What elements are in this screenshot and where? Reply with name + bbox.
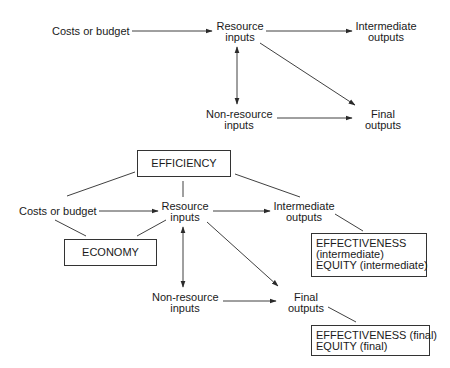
arrow-resource-to-final [260, 43, 355, 105]
link-efficiency-to-intermediate [235, 174, 300, 197]
bottom-final-line2: outputs [285, 303, 327, 314]
bottom-resource-inputs-label: Resource inputs [156, 201, 214, 223]
equity-intermediate-line: EQUITY (intermediate) [316, 260, 426, 271]
top-final-outputs-label: Final outputs [360, 109, 406, 131]
bottom-costs-label: Costs or budget [19, 206, 97, 217]
economy-box: ECONOMY [64, 239, 157, 266]
equity-final-line: EQUITY (final) [316, 341, 429, 352]
top-resource-line2: inputs [212, 32, 268, 43]
bottom-non-resource-inputs-label: Non-resource inputs [152, 292, 218, 314]
bottom-nonresource-line2: inputs [152, 303, 218, 314]
link-final-to-effectiveness-box [328, 307, 356, 322]
top-intermediate-outputs-label: Intermediate outputs [353, 21, 419, 43]
efficiency-box: EFFICIENCY [137, 150, 231, 177]
top-nonresource-line2: inputs [206, 120, 272, 131]
economy-label: ECONOMY [82, 247, 139, 258]
efficiency-label: EFFICIENCY [151, 158, 216, 169]
link-intermediate-to-effectiveness-box [335, 214, 363, 231]
bottom-intermediate-outputs-label: Intermediate outputs [271, 201, 337, 223]
arrow-resource-to-final-bottom [207, 222, 278, 286]
link-costs-to-economy [55, 220, 86, 236]
effectiveness-intermediate-box: EFFECTIVENESS (intermediate) EQUITY (int… [311, 233, 427, 277]
bottom-final-outputs-label: Final outputs [285, 292, 327, 314]
top-resource-inputs-label: Resource inputs [212, 21, 268, 43]
bottom-resource-line2: inputs [156, 212, 214, 223]
effectiveness-final-box: EFFECTIVENESS (final) EQUITY (final) [311, 325, 430, 356]
diagram-connectors [0, 0, 450, 368]
top-costs-label: Costs or budget [52, 26, 130, 37]
link-efficiency-to-costs [67, 172, 135, 196]
top-intermediate-line2: outputs [353, 32, 419, 43]
top-non-resource-inputs-label: Non-resource inputs [206, 109, 272, 131]
bottom-intermediate-line2: outputs [271, 212, 337, 223]
top-final-line2: outputs [360, 120, 406, 131]
